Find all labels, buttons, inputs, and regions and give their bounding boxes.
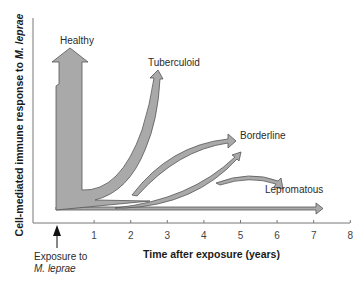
x-tick-label: 8 [348, 230, 354, 241]
x-tick-label: 5 [238, 230, 244, 241]
immune-response-diagram: 12345678 Healthy Tuberculoid Borderline … [0, 0, 364, 282]
y-axis-title-italic: M. leprae [13, 13, 25, 59]
label-lepromatous: Lepromatous [265, 184, 323, 195]
x-tick-label: 6 [274, 230, 280, 241]
label-tuberculoid: Tuberculoid [148, 57, 200, 68]
x-tick-label: 7 [311, 230, 317, 241]
x-axis-title: Time after exposure (years) [143, 248, 280, 260]
label-borderline: Borderline [240, 130, 286, 141]
y-axis-title-prefix: Cell-mediated immune response to [13, 59, 25, 236]
label-healthy: Healthy [60, 35, 94, 46]
x-tick-label: 3 [165, 230, 171, 241]
exposure-arrow-head [53, 225, 61, 236]
x-tick-label: 1 [91, 230, 97, 241]
y-axis-title: Cell-mediated immune response to M. lepr… [13, 13, 25, 236]
exposure-label-line2: M. leprae [34, 263, 76, 274]
x-tick-label: 4 [201, 230, 207, 241]
x-tick-label: 2 [128, 230, 134, 241]
exposure-label-line1: Exposure to [34, 251, 88, 262]
